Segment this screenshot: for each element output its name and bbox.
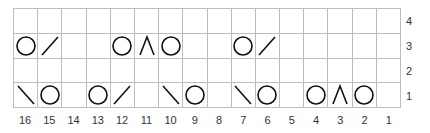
chart-cell-r2-c16 bbox=[14, 59, 38, 84]
right-decrease-icon bbox=[256, 35, 278, 57]
chart-cell-r2-c11 bbox=[135, 59, 159, 84]
double-decrease-icon bbox=[136, 35, 158, 57]
chart-cell-r2-c10 bbox=[159, 59, 183, 84]
chart-cell-r4-c10 bbox=[159, 9, 183, 34]
yarn-over-icon bbox=[87, 84, 109, 106]
left-decrease-icon bbox=[15, 84, 37, 106]
double-decrease-icon bbox=[329, 84, 351, 106]
chart-cell-r1-c1 bbox=[377, 83, 401, 108]
left-decrease-icon bbox=[232, 84, 254, 106]
chart-cell-r1-c10 bbox=[159, 83, 183, 108]
chart-cell-r4-c15 bbox=[38, 9, 62, 34]
chart-cell-r1-c7 bbox=[232, 83, 256, 108]
yarn-over-icon bbox=[232, 35, 254, 57]
yarn-over-icon bbox=[160, 35, 182, 57]
chart-cell-r3-c11 bbox=[135, 34, 159, 59]
chart-cell-r4-c7 bbox=[232, 9, 256, 34]
chart-cell-r2-c14 bbox=[62, 59, 86, 84]
chart-cell-r1-c11 bbox=[135, 83, 159, 108]
chart-cell-r2-c8 bbox=[208, 59, 232, 84]
chart-cell-r2-c2 bbox=[353, 59, 377, 84]
chart-cell-r2-c7 bbox=[232, 59, 256, 84]
column-label: 16 bbox=[13, 114, 37, 130]
yarn-over-icon bbox=[305, 84, 327, 106]
row-label: 1 bbox=[406, 83, 426, 108]
yarn-over-icon bbox=[39, 84, 61, 106]
chart-cell-r2-c1 bbox=[377, 59, 401, 84]
right-decrease-icon bbox=[111, 84, 133, 106]
chart-cell-r3-c15 bbox=[38, 34, 62, 59]
chart-cell-r1-c3 bbox=[328, 83, 352, 108]
column-label: 13 bbox=[86, 114, 110, 130]
chart-cell-r4-c14 bbox=[62, 9, 86, 34]
knitting-chart-grid bbox=[13, 8, 401, 108]
column-label: 15 bbox=[37, 114, 61, 130]
chart-cell-r3-c9 bbox=[183, 34, 207, 59]
chart-cell-r1-c8 bbox=[208, 83, 232, 108]
chart-cell-r1-c5 bbox=[280, 83, 304, 108]
chart-cell-r2-c12 bbox=[111, 59, 135, 84]
chart-cell-r1-c14 bbox=[62, 83, 86, 108]
column-label: 5 bbox=[280, 114, 304, 130]
yarn-over-icon bbox=[184, 84, 206, 106]
chart-cell-r4-c4 bbox=[304, 9, 328, 34]
row-label: 2 bbox=[406, 58, 426, 83]
chart-cell-r3-c4 bbox=[304, 34, 328, 59]
column-label: 8 bbox=[207, 114, 231, 130]
chart-cell-r4-c13 bbox=[87, 9, 111, 34]
row-label: 4 bbox=[406, 8, 426, 33]
column-label: 7 bbox=[231, 114, 255, 130]
column-label: 9 bbox=[183, 114, 207, 130]
column-label: 1 bbox=[377, 114, 401, 130]
column-label: 2 bbox=[353, 114, 377, 130]
column-label: 4 bbox=[304, 114, 328, 130]
chart-cell-r4-c1 bbox=[377, 9, 401, 34]
chart-cell-r4-c6 bbox=[256, 9, 280, 34]
chart-cell-r3-c5 bbox=[280, 34, 304, 59]
chart-cell-r3-c7 bbox=[232, 34, 256, 59]
chart-cell-r4-c9 bbox=[183, 9, 207, 34]
chart-cell-r1-c13 bbox=[87, 83, 111, 108]
chart-cell-r4-c5 bbox=[280, 9, 304, 34]
chart-cell-r3-c10 bbox=[159, 34, 183, 59]
chart-cell-r4-c3 bbox=[328, 9, 352, 34]
chart-cell-r3-c2 bbox=[353, 34, 377, 59]
chart-cell-r4-c16 bbox=[14, 9, 38, 34]
chart-cell-r1-c2 bbox=[353, 83, 377, 108]
chart-cell-r4-c12 bbox=[111, 9, 135, 34]
chart-cell-r4-c11 bbox=[135, 9, 159, 34]
right-decrease-icon bbox=[39, 35, 61, 57]
chart-cell-r1-c9 bbox=[183, 83, 207, 108]
yarn-over-icon bbox=[353, 84, 375, 106]
chart-cell-r3-c1 bbox=[377, 34, 401, 59]
chart-cell-r2-c6 bbox=[256, 59, 280, 84]
chart-cell-r1-c16 bbox=[14, 83, 38, 108]
column-label: 14 bbox=[62, 114, 86, 130]
chart-cell-r2-c5 bbox=[280, 59, 304, 84]
chart-cell-r2-c3 bbox=[328, 59, 352, 84]
chart-cell-r1-c6 bbox=[256, 83, 280, 108]
chart-cell-r2-c9 bbox=[183, 59, 207, 84]
chart-cell-r2-c15 bbox=[38, 59, 62, 84]
column-number-labels: 16151413121110987654321 bbox=[13, 114, 401, 130]
chart-cell-r3-c16 bbox=[14, 34, 38, 59]
column-label: 3 bbox=[328, 114, 352, 130]
chart-cell-r2-c4 bbox=[304, 59, 328, 84]
chart-cell-r3-c3 bbox=[328, 34, 352, 59]
chart-cell-r3-c6 bbox=[256, 34, 280, 59]
yarn-over-icon bbox=[111, 35, 133, 57]
chart-cell-r1-c12 bbox=[111, 83, 135, 108]
row-label: 3 bbox=[406, 33, 426, 58]
chart-cell-r1-c4 bbox=[304, 83, 328, 108]
column-label: 6 bbox=[256, 114, 280, 130]
column-label: 12 bbox=[110, 114, 134, 130]
column-label: 11 bbox=[134, 114, 158, 130]
row-number-labels: 4321 bbox=[406, 8, 426, 108]
chart-cell-r1-c15 bbox=[38, 83, 62, 108]
left-decrease-icon bbox=[160, 84, 182, 106]
chart-cell-r3-c13 bbox=[87, 34, 111, 59]
yarn-over-icon bbox=[15, 35, 37, 57]
chart-cell-r3-c14 bbox=[62, 34, 86, 59]
yarn-over-icon bbox=[256, 84, 278, 106]
chart-cell-r4-c2 bbox=[353, 9, 377, 34]
